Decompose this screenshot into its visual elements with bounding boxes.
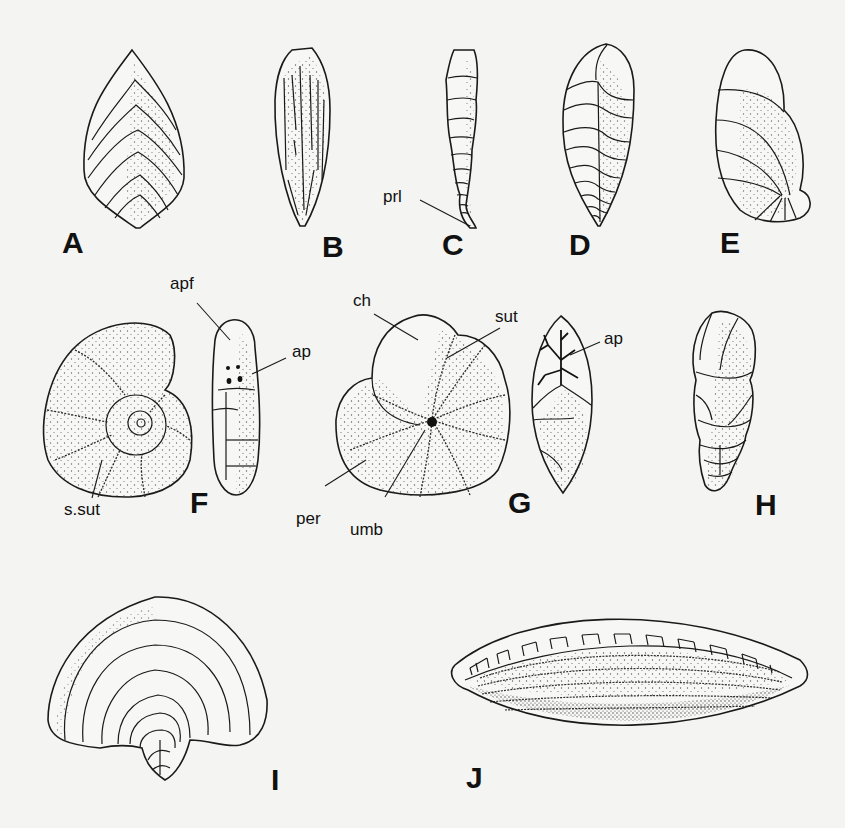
panel-label-c: C bbox=[442, 230, 464, 260]
specimen-f-edge bbox=[197, 303, 286, 495]
term-s-sut: s.sut bbox=[64, 501, 100, 518]
term-sut: sut bbox=[495, 308, 518, 325]
term-ch: ch bbox=[353, 292, 371, 309]
panel-label-a: A bbox=[62, 228, 84, 258]
specimen-b bbox=[275, 48, 330, 226]
specimen-i bbox=[48, 597, 267, 780]
panel-label-e: E bbox=[720, 228, 740, 258]
leader-apf bbox=[197, 303, 230, 340]
specimen-h bbox=[693, 312, 755, 491]
specimen-f bbox=[44, 323, 192, 498]
specimen-g bbox=[325, 314, 510, 497]
specimen-g-edge bbox=[532, 316, 600, 493]
figure-plate bbox=[0, 0, 845, 828]
panel-label-h: H bbox=[755, 490, 777, 520]
term-apf: apf bbox=[170, 275, 194, 292]
specimen-a bbox=[84, 50, 184, 228]
panel-label-d: D bbox=[569, 230, 591, 260]
panel-label-i: I bbox=[271, 765, 279, 795]
term-umb: umb bbox=[350, 521, 383, 538]
panel-label-j: J bbox=[466, 763, 483, 793]
term-ap-g: ap bbox=[604, 330, 623, 347]
term-prl: prl bbox=[383, 188, 402, 205]
panel-label-g: G bbox=[508, 488, 531, 518]
specimen-e bbox=[716, 50, 810, 222]
panel-label-b: B bbox=[322, 232, 344, 262]
panel-label-f: F bbox=[190, 488, 208, 518]
specimen-j bbox=[452, 619, 808, 725]
specimen-d bbox=[563, 44, 634, 226]
specimen-c bbox=[420, 50, 477, 228]
term-per: per bbox=[296, 510, 321, 527]
term-ap-f: ap bbox=[292, 343, 311, 360]
